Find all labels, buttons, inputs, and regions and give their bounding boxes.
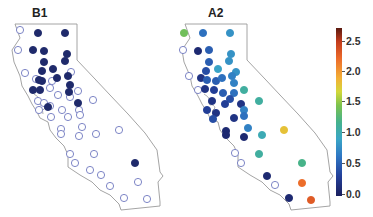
colorbar-tick-2.0 bbox=[342, 71, 345, 72]
station-valued bbox=[201, 85, 208, 92]
california-outline-a2 bbox=[182, 24, 333, 210]
station-filled bbox=[38, 77, 45, 84]
station-valued bbox=[225, 57, 232, 64]
station-valued bbox=[203, 76, 210, 83]
station-open bbox=[115, 126, 122, 133]
station-filled bbox=[74, 99, 81, 106]
colorbar-label-1.0: 1.0 bbox=[346, 127, 361, 137]
station-filled bbox=[36, 86, 43, 93]
station-filled bbox=[63, 50, 70, 57]
colorbar-tick-0 bbox=[342, 194, 345, 195]
station-valued bbox=[205, 46, 212, 53]
station-open bbox=[54, 91, 61, 98]
station-valued bbox=[307, 196, 314, 203]
station-open bbox=[194, 86, 201, 93]
station-valued bbox=[230, 79, 237, 86]
station-open bbox=[143, 195, 150, 202]
station-valued bbox=[227, 50, 234, 57]
colorbar-tick-1.0 bbox=[342, 132, 345, 133]
station-valued bbox=[244, 124, 251, 131]
station-open bbox=[179, 46, 186, 53]
station-open bbox=[134, 178, 141, 185]
station-open bbox=[90, 150, 97, 157]
station-valued bbox=[298, 179, 305, 186]
station-valued bbox=[255, 97, 262, 104]
station-open bbox=[185, 72, 192, 79]
station-filled bbox=[61, 29, 68, 36]
station-open bbox=[21, 69, 28, 76]
station-open bbox=[120, 194, 127, 201]
station-filled bbox=[64, 72, 71, 79]
station-filled bbox=[40, 58, 47, 65]
station-open bbox=[47, 113, 54, 120]
station-open bbox=[74, 87, 81, 94]
station-valued bbox=[194, 47, 201, 54]
station-valued bbox=[209, 115, 216, 122]
station-open bbox=[35, 106, 42, 113]
station-valued bbox=[298, 159, 305, 166]
station-valued bbox=[203, 106, 210, 113]
station-valued bbox=[222, 131, 229, 138]
station-valued bbox=[208, 97, 215, 104]
station-valued bbox=[240, 133, 247, 140]
station-valued bbox=[226, 29, 233, 36]
station-open bbox=[64, 113, 71, 120]
station-valued bbox=[240, 112, 247, 119]
colorbar-label-1.5: 1.5 bbox=[346, 96, 361, 106]
station-open bbox=[78, 123, 85, 130]
california-maps bbox=[0, 0, 373, 217]
station-valued bbox=[221, 100, 228, 107]
station-open bbox=[66, 150, 73, 157]
station-open bbox=[58, 106, 65, 113]
station-open bbox=[76, 111, 83, 118]
station-open bbox=[92, 130, 99, 137]
station-filled bbox=[34, 29, 41, 36]
station-filled bbox=[53, 74, 60, 81]
station-valued bbox=[280, 126, 287, 133]
station-open bbox=[16, 26, 23, 33]
station-filled bbox=[61, 57, 68, 64]
station-valued bbox=[255, 150, 262, 157]
colorbar-label-0: 0.0 bbox=[346, 189, 361, 199]
colorbar-label-2.5: 2.5 bbox=[346, 36, 361, 46]
colorbar-tick-1.5 bbox=[342, 101, 345, 102]
state-outline bbox=[182, 24, 333, 210]
station-open bbox=[89, 96, 96, 103]
station-open bbox=[106, 182, 113, 189]
station-filled bbox=[29, 46, 36, 53]
station-open bbox=[271, 181, 278, 188]
station-filled bbox=[49, 65, 56, 72]
station-valued bbox=[228, 72, 235, 79]
station-open bbox=[75, 132, 82, 139]
colorbar-label-0.5: 0.5 bbox=[346, 158, 361, 168]
station-valued bbox=[263, 172, 270, 179]
station-valued bbox=[214, 65, 221, 72]
colorbar-tick-0.5 bbox=[342, 163, 345, 164]
station-valued bbox=[258, 131, 265, 138]
station-valued bbox=[230, 114, 237, 121]
station-valued bbox=[219, 89, 226, 96]
station-filled bbox=[29, 86, 36, 93]
station-open bbox=[86, 166, 93, 173]
station-valued bbox=[285, 194, 292, 201]
station-open bbox=[97, 171, 104, 178]
station-filled bbox=[38, 67, 45, 74]
colorbar-tick-2.5 bbox=[342, 41, 345, 42]
station-valued bbox=[210, 86, 217, 93]
station-open bbox=[231, 149, 238, 156]
station-valued bbox=[180, 29, 187, 36]
station-valued bbox=[202, 67, 209, 74]
station-valued bbox=[205, 58, 212, 65]
station-open bbox=[46, 84, 53, 91]
colorbar-label-2.0: 2.0 bbox=[346, 66, 361, 76]
station-open bbox=[14, 46, 21, 53]
station-filled bbox=[131, 159, 138, 166]
station-open bbox=[71, 159, 78, 166]
station-filled bbox=[44, 103, 51, 110]
station-filled bbox=[65, 88, 72, 95]
station-valued bbox=[199, 29, 206, 36]
station-open bbox=[237, 159, 244, 166]
station-open bbox=[57, 130, 64, 137]
station-valued bbox=[218, 74, 225, 81]
station-filled bbox=[66, 81, 73, 88]
